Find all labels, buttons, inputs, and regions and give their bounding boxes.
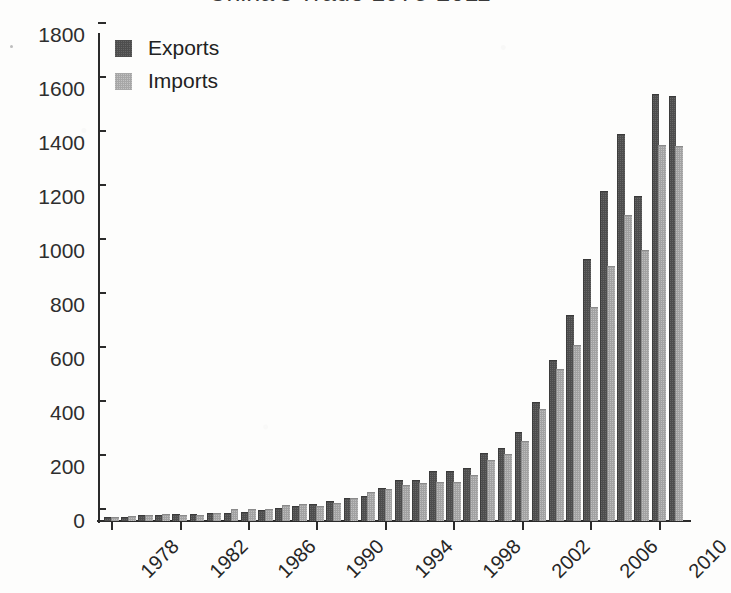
bar-group [309,35,323,521]
bar-group [652,35,666,521]
bar-imports [282,505,290,521]
bar-imports [573,345,581,522]
x-tick-mark [385,521,387,530]
plot-area: 020040060080010001200140016001800 197819… [98,35,690,521]
bar-group [515,35,529,521]
bar-imports [641,250,649,521]
bar-imports [470,475,478,521]
bar-imports [658,145,666,521]
y-tick-label: 0 [23,509,98,533]
bar-imports [504,454,512,521]
bar-group [395,35,409,521]
y-tick-label: 1000 [23,239,98,263]
bar-imports [385,489,393,521]
bar-group [155,35,169,521]
bar-group [412,35,426,521]
bar-group [463,35,477,521]
bar-imports [607,266,615,521]
y-tick-label: 1600 [23,77,98,101]
bar-imports [539,409,547,521]
bar-imports [453,482,461,521]
y-tick-label: 200 [23,455,98,479]
bar-group [480,35,494,521]
bar-imports [248,509,256,521]
bar-imports [675,146,683,521]
bar-group [361,35,375,521]
x-tick-mark [248,521,250,530]
bar-group [549,35,563,521]
bar-group [378,35,392,521]
bar-imports [487,460,495,521]
legend-item-imports: Imports [115,69,219,93]
bar-group [344,35,358,521]
legend-item-exports: Exports [115,36,219,60]
bar-imports [556,369,564,521]
bar-group [669,35,683,521]
bar-imports [111,517,119,521]
bar-group [190,35,204,521]
bar-imports [590,307,598,521]
x-tick-label: 2006 [615,535,663,583]
x-tick-label: 1998 [478,535,526,583]
bar-imports [162,514,170,521]
bar-group [224,35,238,521]
bar-group [498,35,512,521]
bar-imports [196,515,204,521]
scan-speck [10,45,13,48]
bar-imports [333,503,341,521]
bar-group [121,35,135,521]
bar-group [566,35,580,521]
bar-imports [145,515,153,521]
bar-group [172,35,186,521]
bar-imports [179,515,187,521]
bar-imports [436,482,444,521]
x-tick-mark [659,521,661,530]
y-tick-label: 1800 [23,23,98,47]
x-tick-label: 1986 [273,535,321,583]
bar-group [617,35,631,521]
chart-title: China's Trade 1978-2011 [0,0,699,7]
bar-group [138,35,152,521]
x-tick-mark [590,521,592,530]
x-tick-label: 1990 [342,535,390,583]
bar-group [634,35,648,521]
y-tick-label: 1400 [23,131,98,155]
x-tick-label: 1978 [136,535,184,583]
bar-group [429,35,443,521]
bar-imports [402,485,410,521]
bar-group [241,35,255,521]
bar-group [446,35,460,521]
legend-label: Exports [148,36,219,60]
legend-swatch-icon [115,73,132,90]
y-tick-label: 800 [23,293,98,317]
bar-group [532,35,546,521]
bar-group [326,35,340,521]
bar-group [207,35,221,521]
x-tick-mark [522,521,524,530]
x-tick-label: 1982 [205,535,253,583]
bar-imports [128,516,136,521]
y-tick-label: 400 [23,401,98,425]
x-tick-label: 2010 [684,535,731,583]
bar-group [292,35,306,521]
x-tick-label: 1994 [410,535,458,583]
x-tick-mark [453,521,455,530]
bar-imports [367,492,375,521]
x-tick-label: 2002 [547,535,595,583]
bar-group [258,35,272,521]
legend-label: Imports [148,69,218,93]
bar-group [275,35,289,521]
bar-imports [231,509,239,521]
bar-group [583,35,597,521]
x-tick-mark [111,521,113,530]
bar-imports [521,441,529,521]
y-tick-label: 600 [23,347,98,371]
bar-imports [350,498,358,521]
bar-imports [419,483,427,521]
bar-group [600,35,614,521]
y-tick-mark [98,22,106,24]
bar-imports [299,504,307,521]
legend-swatch-icon [115,40,132,57]
bar-group [104,35,118,521]
